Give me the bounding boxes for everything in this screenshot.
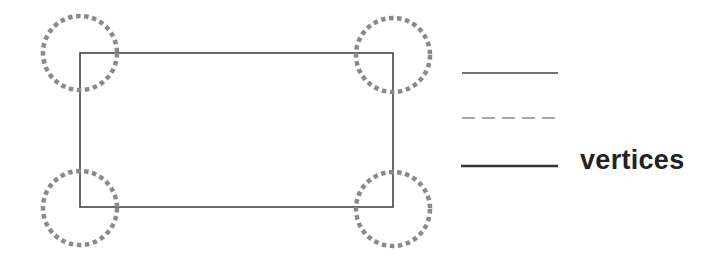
rectangle-vertices-diagram — [0, 0, 720, 261]
rectangle — [80, 53, 393, 207]
vertex-markers — [43, 16, 430, 246]
vertices-label: vertices — [580, 143, 684, 177]
